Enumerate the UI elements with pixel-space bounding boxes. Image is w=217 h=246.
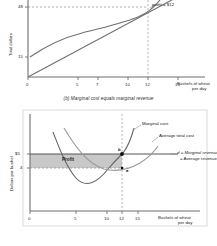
panel-a-xtick-label-5: 5 <box>76 82 78 87</box>
panel-b-xtick-label-0: 0 <box>28 216 30 221</box>
panel-b-x-axis-title-line2: per day <box>178 220 192 225</box>
panel-a-y-axis-title: Total dollars <box>8 33 13 56</box>
panel-b-point-b <box>120 152 124 156</box>
panel-total-revenue-total-cost: Total dollars 48 15 0 5 7 10 12 15 Bushe… <box>0 0 217 92</box>
panel-a-total-cost-curve <box>30 0 164 57</box>
panel-b-xtick-label-15: 15 <box>135 216 140 221</box>
panel-b-profit-region-label: Profit <box>62 157 74 162</box>
panel-b-demand-label-line2: = Average revenue <box>180 156 217 161</box>
panel-b-demand-label-line1: d = Marginal revenue <box>177 150 217 155</box>
panel-b-marginal-cost-label: Marginal cost <box>142 121 168 126</box>
panel-a-xtick-label-10: 10 <box>125 82 130 87</box>
panel-b-ytick-label-4: 4 <box>20 165 22 170</box>
panel-b-xtick-label-12: 12 <box>119 216 124 221</box>
panel-a-plot <box>0 0 217 92</box>
economics-figure: Total dollars 48 15 0 5 7 10 12 15 Bushe… <box>0 0 217 246</box>
panel-b-atc-leader <box>152 137 158 142</box>
panel-b-point-a <box>121 167 124 170</box>
panel-a-profit-annotation: profit = $12 <box>152 2 174 7</box>
panel-b-point-label-a: a <box>126 168 128 173</box>
panel-marginal-cost-marginal-revenue: Dollars per bushel $5 4 0 5 10 12 15 Bus… <box>0 106 217 246</box>
panel-b-xtick-label-5: 5 <box>74 216 76 221</box>
panel-b-caption: (b) Marginal cost equals marginal revenu… <box>0 96 217 101</box>
panel-b-point-label-b: b <box>118 147 121 152</box>
panel-b-profit-region <box>30 154 122 168</box>
panel-a-xtick-label-0: 0 <box>26 82 28 87</box>
panel-b-y-axis-title: Dollars per bushel <box>9 156 14 191</box>
panel-b-mc-leader <box>133 125 141 130</box>
panel-b-ytick-label-5: $5 <box>15 151 20 156</box>
panel-b-average-total-cost-label: Average total cost <box>159 133 194 138</box>
panel-a-x-axis-title-line2: per day <box>192 86 206 91</box>
panel-a-ytick-label-48: 48 <box>18 4 23 9</box>
panel-b-xtick-label-10: 10 <box>104 216 109 221</box>
panel-a-xtick-label-7: 7 <box>96 82 98 87</box>
panel-a-total-revenue-curve <box>28 0 183 77</box>
panel-a-ytick-label-15: 15 <box>18 54 23 59</box>
panel-a-xtick-label-12: 12 <box>145 82 150 87</box>
